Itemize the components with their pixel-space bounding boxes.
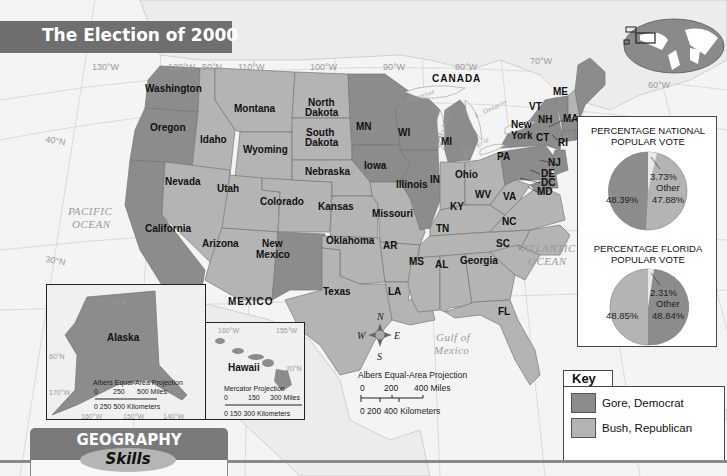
label-hawaii: Hawaii xyxy=(228,362,260,373)
lat-50n: 50°N xyxy=(202,62,222,72)
svg-text:20°N: 20°N xyxy=(286,365,302,372)
svg-text:70°N: 70°N xyxy=(111,299,127,306)
label-md: MD xyxy=(537,186,553,197)
label-ri: RI xyxy=(558,137,568,148)
label-missouri: Missouri xyxy=(372,208,413,219)
label-ohio: Ohio xyxy=(455,169,478,180)
label-oklahoma: Oklahoma xyxy=(326,235,375,246)
state-wyoming[interactable] xyxy=(235,132,292,180)
florida-pie-chart: 2.31% Other 48.85% 48.84% xyxy=(578,265,718,355)
label-in: IN xyxy=(430,174,440,185)
label-la: LA xyxy=(388,286,401,297)
label-nh: NH xyxy=(538,114,552,125)
label-washington: Washington xyxy=(145,83,202,94)
label-canada: CANADA xyxy=(432,73,481,84)
key-label-gore: Gore, Democrat xyxy=(602,397,684,409)
national-pie-title: PERCENTAGE NATIONAL POPULAR VOTE xyxy=(578,125,718,147)
svg-text:160°W: 160°W xyxy=(81,413,102,420)
label-me: ME xyxy=(553,86,568,97)
hawaii-inset: Hawaii 160°W 155°W 20°N Mercator Project… xyxy=(205,322,305,420)
compass-s: S xyxy=(377,351,383,362)
label-mexico: MEXICO xyxy=(228,296,273,307)
label-nebraska: Nebraska xyxy=(305,166,350,177)
lon-90w: 90°W xyxy=(383,62,406,72)
label-nj: NJ xyxy=(548,157,561,168)
compass-e: E xyxy=(393,330,401,341)
compass-n: N xyxy=(376,311,385,322)
label-pa: PA xyxy=(497,151,510,162)
lon-100w: 100°W xyxy=(310,62,338,72)
label-wyoming: Wyoming xyxy=(243,144,288,155)
lon-120w: 120°W xyxy=(168,62,196,72)
label-vt: VT xyxy=(529,101,542,112)
label-sc: SC xyxy=(496,238,510,249)
label-new-mexico-2: Mexico xyxy=(256,249,290,260)
label-new-mexico-1: New xyxy=(262,238,283,249)
label-arizona: Arizona xyxy=(202,238,239,249)
label-al: AL xyxy=(435,259,448,270)
svg-text:0 250 500 Kilometers: 0 250 500 Kilometers xyxy=(94,403,161,410)
label-fl: FL xyxy=(498,306,510,317)
national-bush-pct: 47.88% xyxy=(652,194,685,205)
map-title: The Election of 2000 xyxy=(42,25,238,45)
label-oregon: Oregon xyxy=(150,122,186,133)
label-georgia: Georgia xyxy=(460,255,498,266)
bush-swatch xyxy=(571,418,596,438)
svg-text:0: 0 xyxy=(360,383,365,393)
label-new-york-2: York xyxy=(511,130,533,141)
label-gulf-1: Gulf of xyxy=(436,331,472,343)
label-utah: Utah xyxy=(217,183,239,194)
svg-text:0: 0 xyxy=(94,388,98,395)
world-locator-map xyxy=(624,19,724,73)
label-ms: MS xyxy=(409,256,424,267)
svg-text:155°W: 155°W xyxy=(276,327,297,334)
svg-text:160°W: 160°W xyxy=(218,327,239,334)
svg-text:0: 0 xyxy=(224,394,228,401)
label-pacific-2: OCEAN xyxy=(72,218,111,230)
label-ar: AR xyxy=(383,240,398,251)
label-idaho: Idaho xyxy=(200,134,227,145)
svg-text:170°W: 170°W xyxy=(49,389,70,396)
lon-60w: 60°W xyxy=(648,80,671,90)
lon-80w: 80°W xyxy=(455,62,478,72)
florida-other-label: Other xyxy=(656,298,680,309)
hawaii-map: Hawaii 160°W 155°W 20°N Mercator Project… xyxy=(206,323,305,420)
label-south-dakota-2: Dakota xyxy=(305,137,339,148)
national-gore-slice xyxy=(608,152,648,230)
label-illinois: Illinois xyxy=(396,179,428,190)
label-iowa: Iowa xyxy=(364,160,387,171)
compass-w: W xyxy=(357,330,367,341)
label-colorado: Colorado xyxy=(260,196,304,207)
label-tn: TN xyxy=(436,223,449,234)
florida-other-pct: 2.31% xyxy=(650,287,677,298)
svg-text:150: 150 xyxy=(248,394,260,401)
svg-text:300 Miles: 300 Miles xyxy=(270,394,300,401)
national-other-label: Other xyxy=(656,182,680,193)
svg-text:500 Miles: 500 Miles xyxy=(137,388,167,395)
gore-swatch xyxy=(571,393,596,413)
svg-text:140°W: 140°W xyxy=(163,413,184,420)
key-item-bush: Bush, Republican xyxy=(571,418,692,438)
label-montana: Montana xyxy=(234,103,276,114)
label-texas: Texas xyxy=(323,286,351,297)
label-ct: CT xyxy=(536,132,549,143)
label-wv: WV xyxy=(475,189,491,200)
label-pacific-1: PACIFIC xyxy=(67,205,112,217)
label-nc: NC xyxy=(502,216,516,227)
alaska-map: Alaska 70°N 60°N 170°W 160°W 150°W 140°W… xyxy=(47,285,206,420)
label-atlantic-2: OCEAN xyxy=(528,255,567,267)
label-kansas: Kansas xyxy=(318,201,354,212)
label-mn: MN xyxy=(356,121,372,132)
label-north-dakota-2: Dakota xyxy=(305,107,339,118)
label-va: VA xyxy=(503,191,516,202)
label-wi: WI xyxy=(398,127,410,138)
label-atlantic-1: ATLANTIC xyxy=(521,242,576,254)
main-km-label: 0 200 400 Kilometers xyxy=(360,406,440,416)
svg-text:Albers Equal-Area Projection: Albers Equal-Area Projection xyxy=(93,379,183,387)
svg-text:60°N: 60°N xyxy=(49,353,65,360)
key-title: Key xyxy=(572,371,596,386)
label-ky: KY xyxy=(450,201,464,212)
label-alaska: Alaska xyxy=(107,332,140,343)
alaska-inset: Alaska 70°N 60°N 170°W 160°W 150°W 140°W… xyxy=(46,284,206,420)
svg-text:150°W: 150°W xyxy=(123,413,144,420)
